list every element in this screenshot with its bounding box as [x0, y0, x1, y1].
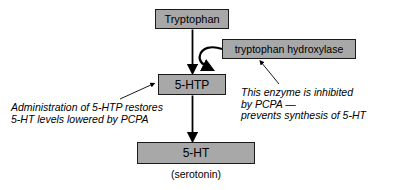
- node-5-ht: 5-HT: [137, 142, 255, 164]
- node-tryptophan-label: Tryptophan: [164, 14, 219, 25]
- leader-left-annotation: [120, 84, 153, 99]
- leader-right-annotation: [261, 62, 279, 84]
- annotation-right-line-1: This enzyme is inhibited: [241, 87, 366, 99]
- caption-serotonin: (serotonin): [158, 168, 234, 180]
- node-tryptophan-hydroxylase: tryptophan hydroxylase: [222, 39, 356, 59]
- edge-hydroxylase-curved-arrow: [200, 47, 222, 68]
- diagram-canvas: Tryptophan tryptophan hydroxylase 5-HTP …: [0, 0, 394, 190]
- annotation-left-administration: Administration of 5-HTP restores 5-HT le…: [11, 102, 163, 125]
- node-tryptophan-hydroxylase-label: tryptophan hydroxylase: [235, 44, 344, 55]
- annotation-right-inhibition: This enzyme is inhibited by PCPA — preve…: [241, 87, 366, 122]
- annotation-left-line-2: 5-HT levels lowered by PCPA: [11, 114, 163, 126]
- annotation-right-line-3: prevents synthesis of 5-HT: [241, 110, 366, 122]
- node-tryptophan: Tryptophan: [155, 9, 229, 29]
- node-5-ht-label: 5-HT: [183, 147, 210, 159]
- node-5-htp-label: 5-HTP: [175, 79, 210, 91]
- node-5-htp: 5-HTP: [158, 74, 226, 95]
- annotation-left-line-1: Administration of 5-HTP restores: [11, 102, 163, 114]
